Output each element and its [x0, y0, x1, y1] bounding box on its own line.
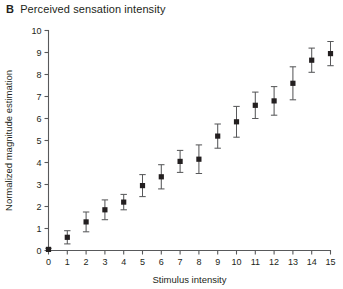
- x-tick-label-13: 13: [288, 257, 298, 267]
- y-tick-label-3: 3: [36, 180, 41, 190]
- x-tick-label-8: 8: [196, 257, 201, 267]
- data-point: [290, 67, 296, 100]
- y-axis: 012345678910: [31, 26, 48, 256]
- data-points-group: [45, 42, 333, 253]
- data-marker: [121, 200, 126, 205]
- data-point: [252, 92, 258, 118]
- data-marker: [309, 58, 314, 63]
- data-point: [215, 124, 221, 148]
- x-tick-label-11: 11: [251, 257, 260, 267]
- x-tick-label-3: 3: [102, 257, 107, 267]
- data-marker: [272, 98, 277, 103]
- data-point: [233, 106, 239, 137]
- x-tick-label-7: 7: [178, 257, 183, 267]
- x-axis-ticks: 0123456789101112131415: [46, 251, 336, 267]
- data-point: [139, 175, 145, 197]
- y-tick-label-9: 9: [36, 48, 41, 58]
- y-tick-label-7: 7: [36, 92, 41, 102]
- x-tick-label-15: 15: [325, 257, 335, 267]
- y-tick-label-10: 10: [31, 26, 41, 36]
- x-tick-label-1: 1: [65, 257, 70, 267]
- data-point: [83, 212, 89, 232]
- x-axis-title: Stimulus intensity: [153, 274, 227, 285]
- data-point: [121, 194, 127, 209]
- y-axis-ticks: 012345678910: [31, 26, 48, 256]
- y-axis-title: Normalized magnitude estimation: [3, 70, 14, 211]
- x-tick-label-5: 5: [140, 257, 145, 267]
- data-marker: [196, 157, 201, 162]
- data-point: [45, 247, 51, 252]
- y-tick-label-5: 5: [36, 136, 41, 146]
- y-tick-label-0: 0: [36, 246, 41, 256]
- data-point: [196, 145, 202, 174]
- y-tick-label-1: 1: [36, 224, 41, 234]
- data-point: [271, 87, 277, 116]
- y-tick-label-2: 2: [36, 202, 41, 212]
- x-tick-label-4: 4: [121, 257, 126, 267]
- data-marker: [84, 219, 89, 224]
- x-axis: 0123456789101112131415: [46, 251, 336, 267]
- x-tick-label-14: 14: [307, 257, 317, 267]
- data-marker: [140, 183, 145, 188]
- x-tick-label-10: 10: [231, 257, 241, 267]
- scatter-plot: 012345678910 0123456789101112131415 Stim…: [0, 0, 343, 289]
- x-tick-label-0: 0: [46, 257, 51, 267]
- figure-panel-b: B Perceived sensation intensity 01234567…: [0, 0, 343, 289]
- data-marker: [328, 51, 333, 56]
- data-marker: [253, 103, 258, 108]
- data-marker: [178, 159, 183, 164]
- data-marker: [65, 235, 70, 240]
- x-tick-label-9: 9: [215, 257, 220, 267]
- data-marker: [290, 81, 295, 86]
- data-point: [177, 150, 183, 172]
- data-marker: [159, 174, 164, 179]
- data-point: [327, 42, 333, 66]
- data-marker: [234, 119, 239, 124]
- y-tick-label-6: 6: [36, 114, 41, 124]
- y-tick-label-4: 4: [36, 158, 41, 168]
- data-point: [102, 200, 108, 220]
- x-tick-label-2: 2: [84, 257, 89, 267]
- y-tick-label-8: 8: [36, 70, 41, 80]
- data-point: [309, 48, 315, 72]
- data-marker: [46, 247, 51, 252]
- x-tick-label-12: 12: [269, 257, 279, 267]
- data-point: [158, 165, 164, 189]
- data-marker: [215, 134, 220, 139]
- data-point: [64, 231, 70, 244]
- data-marker: [102, 207, 107, 212]
- x-tick-label-6: 6: [159, 257, 164, 267]
